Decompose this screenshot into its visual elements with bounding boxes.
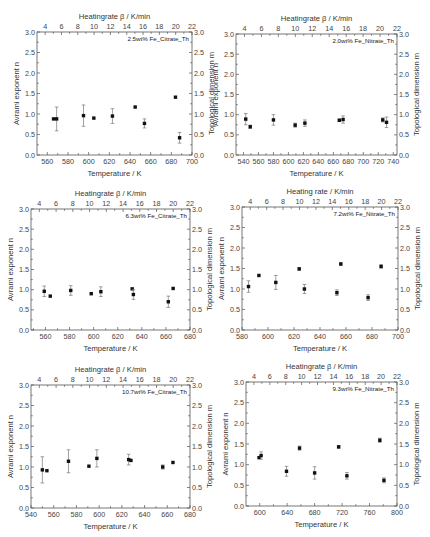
y2-tick-label: 2.0 [192,422,202,431]
top-x-tick-label: 14 [123,22,131,31]
data-point [335,291,338,294]
y-tick-label: 2.0 [234,419,244,428]
data-point [298,267,301,270]
y2-tick-label: 1.5 [192,442,202,451]
sample-label: 9.3wt% Fe_Nitrate_Th [332,385,394,392]
y2-axis-title: Topological dimension m [412,53,421,136]
top-x-tick-label: 12 [314,372,322,381]
y2-tick-label: 2.5 [194,48,204,57]
y-tick-label: 1.0 [19,285,29,294]
y-tick-label: 0.5 [25,130,35,139]
y2-tick-label: 0.5 [192,305,202,314]
y-tick-label: 2.0 [19,245,29,254]
data-point [129,459,132,462]
data-point [90,292,93,295]
y-tick-label: 3.0 [224,30,234,39]
top-x-tick-label: 8 [71,375,75,384]
y-tick-label: 3.0 [19,205,29,214]
x-tick-label: 600 [282,157,294,166]
top-x-tick-label: 22 [186,199,194,208]
data-point [161,465,164,468]
x-tick-label: 560 [39,332,51,341]
data-point [171,287,174,290]
data-point [132,293,135,296]
data-point [303,121,306,124]
data-point [259,454,262,457]
y2-tick-label: 2.0 [399,419,409,428]
top-x-tick-label: 4 [242,24,246,33]
top-x-tick-label: 14 [329,372,337,381]
top-x-tick-label: 18 [359,24,367,33]
y-tick-label: 2.5 [25,48,35,57]
data-point [67,460,70,463]
top-x-tick-label: 22 [394,197,402,206]
sample-label: 2.0wt% Fe_Nitrate_Th [332,37,394,44]
data-point [69,289,72,292]
x-tick-label: 640 [281,508,293,517]
y-tick-label: 3.0 [19,381,29,390]
data-point [174,95,177,98]
y-tick-label: 0.5 [19,483,29,492]
y2-tick-label: 0.5 [399,130,409,139]
sample-label: 7.2wt% Fe_Nitrate_Th [333,210,395,217]
y2-tick-label: 2.5 [400,223,410,232]
x-tick-label: 660 [327,157,339,166]
top-x-tick-label: 20 [169,375,177,384]
top-x-tick-label: 6 [259,24,263,33]
x-tick-label: 600 [83,157,95,166]
data-point [143,122,146,125]
top-x-tick-label: 10 [90,22,98,31]
y-tick-label: 2.0 [19,422,29,431]
x-tick-label: 720 [372,157,384,166]
x-tick-label: 680 [342,157,354,166]
top-x-tick-label: 14 [119,199,127,208]
x-tick-label: 580 [236,332,248,341]
data-point [285,470,288,473]
x-tick-label: 580 [267,157,279,166]
y2-tick-label: 0.5 [399,481,409,490]
plot-frame [31,385,190,508]
y-tick-label: 0.0 [25,151,35,160]
top-x-tick-label: 18 [361,197,369,206]
y2-tick-label: 2.0 [194,69,204,78]
x-tick-label: 680 [366,332,378,341]
x-tick-label: 700 [186,157,198,166]
data-point [379,265,382,268]
data-point [247,285,250,288]
chart-panel-1: 0.00.00.50.51.01.01.51.52.02.02.52.53.03… [12,12,216,178]
top-x-tick-label: 8 [284,372,288,381]
y-tick-label: 1.0 [230,285,240,294]
top-axis-title: Heatingrate β / K/min [79,12,150,21]
data-point [338,119,341,122]
y-axis-title: Avrami exponent n [6,238,15,301]
data-point [385,121,388,124]
y2-tick-label: 2.0 [400,244,410,253]
data-point [52,117,55,120]
top-x-tick-label: 4 [43,22,47,31]
top-x-tick-label: 4 [37,375,41,384]
x-tick-label: 620 [103,157,115,166]
data-point [382,479,385,482]
top-axis-title: Heatingrate β / K/min [75,189,146,198]
data-point [45,469,48,472]
y2-axis-title: Topological dimension m [205,405,214,488]
y-tick-label: 3.0 [234,378,244,387]
y-tick-label: 2.5 [224,50,234,59]
top-x-tick-label: 16 [136,375,144,384]
figure: 0.00.00.50.51.01.01.51.52.02.02.52.53.03… [0,0,430,537]
y-tick-label: 0.5 [19,305,29,314]
x-tick-label: 680 [184,332,196,341]
y2-tick-label: 2.0 [192,245,202,254]
top-x-tick-label: 14 [119,375,127,384]
data-point [92,116,95,119]
top-x-tick-label: 8 [76,22,80,31]
y-tick-label: 1.5 [230,264,240,273]
x-tick-label: 700 [392,332,404,341]
y-tick-label: 3.0 [25,28,35,37]
x-tick-label: 660 [160,332,172,341]
x-axis-title: Temperature / K [83,522,137,531]
y2-tick-label: 1.5 [399,90,409,99]
data-point [345,474,348,477]
chart-panel-2: 0.00.00.50.51.01.01.51.52.02.02.52.53.03… [211,14,421,178]
top-x-tick-label: 12 [312,197,320,206]
